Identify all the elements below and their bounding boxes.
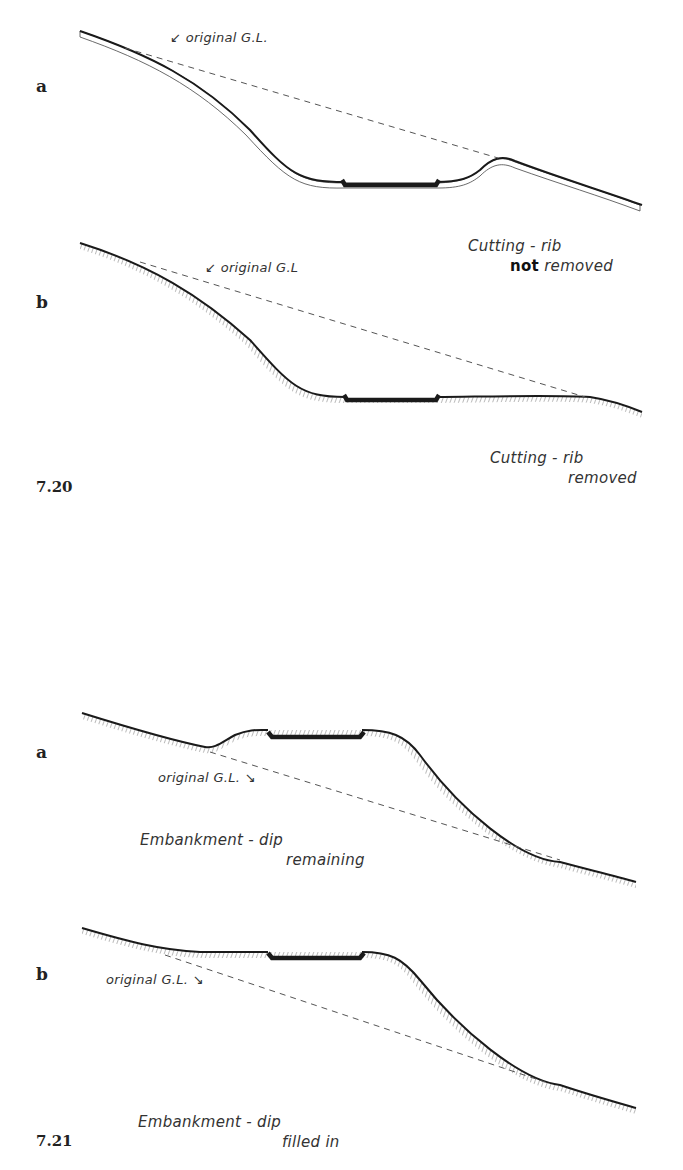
caption-line-2: filled in (138, 1132, 358, 1152)
figure-number-7-21: 7.21 (36, 1132, 73, 1150)
annotation-text: original G.L. (186, 30, 268, 45)
original-gl-annotation-7-20b: ↙ original G.L (205, 258, 298, 278)
caption-emphasis: not (510, 257, 539, 275)
caption-line-1: Embankment - dip (138, 1112, 358, 1132)
annotation-text: original G.L. (158, 770, 240, 785)
caption-7-21a: Embankment - dip remaining (140, 830, 360, 870)
original-gl-annotation-7-20a: ↙ original G.L. (170, 28, 268, 48)
caption-line-2: remaining (140, 850, 360, 870)
caption-7-20b: Cutting - rib removed (490, 448, 650, 488)
annotation-text: original G.L. (106, 972, 188, 987)
fig-7-21b-section (82, 928, 636, 1114)
cross-section-diagrams (0, 0, 683, 1170)
panel-label-7-20b: b (36, 292, 48, 312)
caption-line-1: Embankment - dip (140, 830, 360, 850)
panel-label-7-21a: a (36, 742, 47, 762)
caption-line-2: removed (490, 468, 650, 488)
caption-7-20a: Cutting - rib not removed (468, 236, 648, 276)
caption-7-21b: Embankment - dip filled in (138, 1112, 358, 1152)
caption-line-1: Cutting - rib (468, 236, 648, 256)
original-gl-annotation-7-21b: original G.L. ↘ (106, 970, 204, 990)
annotation-text: original G.L (221, 260, 299, 275)
caption-line-2: not removed (468, 256, 648, 276)
caption-line-1: Cutting - rib (490, 448, 650, 468)
original-gl-annotation-7-21a: original G.L. ↘ (158, 768, 256, 788)
panel-label-7-20a: a (36, 76, 47, 96)
panel-label-7-21b: b (36, 964, 48, 984)
fig-7-20a-section (80, 31, 642, 211)
caption-line-2-text: removed (544, 257, 613, 275)
figure-number-7-20: 7.20 (36, 478, 73, 496)
